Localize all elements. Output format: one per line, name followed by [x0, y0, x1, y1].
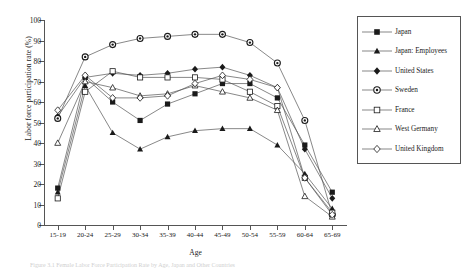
y-axis-tick-label: 10	[34, 204, 42, 205]
y-axis-tick-label: 30	[34, 163, 42, 164]
legend-item-label: France	[392, 106, 415, 114]
data-point-marker	[137, 35, 143, 41]
data-point-marker	[192, 66, 198, 73]
figure-caption: Figure 3.1 Female Labor Force Participat…	[30, 262, 430, 268]
x-axis-tick-label: 65-69	[324, 231, 340, 239]
x-axis-tick	[250, 225, 251, 230]
open-triangle-marker-icon	[362, 124, 392, 134]
x-axis-tick-label: 15-19	[50, 231, 66, 239]
y-axis-tick-label: 90	[34, 40, 42, 41]
data-point-marker	[110, 69, 115, 74]
data-point-marker	[330, 190, 335, 195]
data-point-marker	[137, 146, 143, 151]
data-point-marker	[302, 117, 308, 123]
data-point-marker	[219, 31, 225, 37]
x-axis-tick	[222, 225, 223, 230]
y-axis-tick-label: 60	[34, 102, 42, 103]
data-point-marker	[55, 115, 61, 121]
legend-item[interactable]: United Kingdom	[362, 139, 456, 159]
data-point-marker	[247, 126, 253, 131]
legend-item-label: Japan	[392, 28, 411, 36]
legend-item[interactable]: Japan	[362, 22, 456, 42]
x-axis-tick	[113, 225, 114, 230]
x-axis-tick	[277, 225, 278, 230]
x-axis-tick	[140, 225, 141, 230]
x-axis-tick	[195, 225, 196, 230]
data-point-marker	[110, 42, 116, 48]
x-axis-tick-label: 40-44	[187, 231, 203, 239]
legend: Japan Japan: Employees United States Swe…	[357, 16, 461, 164]
circle-dot-marker-icon	[362, 85, 392, 95]
x-axis-tick-label: 55-59	[269, 231, 285, 239]
data-point-marker	[137, 118, 142, 123]
y-axis-tick-label: 50	[34, 122, 42, 123]
data-point-marker	[137, 75, 142, 80]
y-axis-tick-label: 40	[34, 143, 42, 144]
legend-item[interactable]: United States	[362, 61, 456, 81]
series-layer	[44, 20, 346, 225]
data-point-marker	[274, 84, 280, 91]
filled-triangle-marker-icon	[362, 46, 392, 56]
x-axis-tick	[332, 225, 333, 230]
x-axis-tick-label: 35-39	[159, 231, 175, 239]
series-line	[58, 86, 333, 209]
legend-item-label: United States	[392, 67, 434, 75]
x-axis-tick-label: 30-34	[132, 231, 148, 239]
x-axis-tick-label: 45-49	[214, 231, 230, 239]
data-point-marker	[165, 75, 170, 80]
data-point-marker	[110, 130, 116, 135]
x-axis-tick	[85, 225, 86, 230]
x-axis-tick-label: 50-54	[242, 231, 258, 239]
data-point-marker	[274, 60, 280, 66]
data-point-marker	[55, 196, 60, 201]
y-axis-tick-label: 20	[34, 184, 42, 185]
x-axis-tick-label: 20-24	[77, 231, 93, 239]
legend-item-label: Sweden	[392, 86, 418, 94]
x-axis-title: Age	[44, 248, 347, 257]
data-point-marker	[192, 31, 198, 37]
data-point-marker	[192, 91, 197, 96]
x-axis-tick	[58, 225, 59, 230]
open-diamond-marker-icon	[362, 144, 392, 154]
legend-item-label: United Kingdom	[392, 145, 444, 153]
filled-diamond-marker-icon	[362, 66, 392, 76]
data-point-marker	[55, 140, 61, 145]
y-axis-tick-label: 100	[30, 20, 41, 21]
x-axis-tick	[168, 225, 169, 230]
plot-area: 010203040506070809010015-1920-2425-2930-…	[44, 20, 346, 225]
y-axis-tick-label: 0	[37, 225, 41, 226]
series-line	[58, 34, 333, 214]
data-point-marker	[329, 195, 335, 202]
data-point-marker	[219, 64, 225, 71]
data-point-marker	[83, 89, 88, 94]
data-point-marker	[219, 126, 225, 131]
x-axis-tick-label: 25-29	[104, 231, 120, 239]
legend-item[interactable]: Japan: Employees	[362, 42, 456, 62]
y-axis-title: Labor force participation rate (%)	[24, 0, 33, 179]
y-axis-tick-label: 80	[34, 61, 42, 62]
data-point-marker	[302, 193, 308, 198]
filled-square-marker-icon	[362, 27, 392, 37]
data-point-marker	[192, 75, 197, 80]
data-point-marker	[82, 54, 88, 60]
open-square-marker-icon	[362, 105, 392, 115]
data-point-marker	[247, 40, 253, 46]
x-axis-tick	[305, 225, 306, 230]
legend-item-label: Japan: Employees	[392, 47, 447, 55]
data-point-marker	[247, 89, 252, 94]
data-point-marker	[275, 95, 280, 100]
data-point-marker	[165, 33, 171, 39]
y-axis-tick-label: 70	[34, 81, 42, 82]
legend-item[interactable]: France	[362, 100, 456, 120]
legend-item[interactable]: West Germany	[362, 120, 456, 140]
legend-item[interactable]: Sweden	[362, 81, 456, 101]
legend-item-label: West Germany	[392, 125, 438, 133]
data-point-marker	[165, 101, 170, 106]
figure-chart-female-labor-force-participation: Labor force participation rate (%) 01020…	[0, 0, 465, 272]
x-axis-tick-label: 60-64	[297, 231, 313, 239]
series-line	[58, 82, 333, 217]
data-point-marker	[274, 142, 280, 147]
